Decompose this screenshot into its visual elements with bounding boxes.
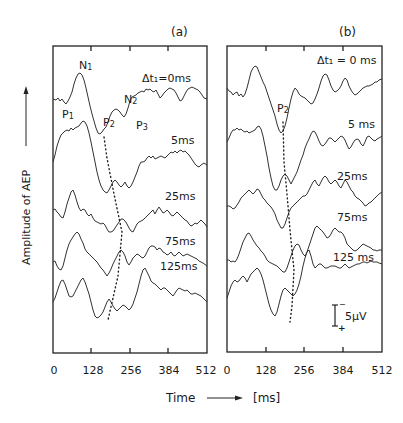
- aep-figure: (a) (b) Amplitude of AEP N1 P1 P2 N2: [0, 0, 403, 423]
- x-axis-label-group: Time [ms]: [165, 391, 280, 405]
- up-arrow-icon: [24, 86, 29, 94]
- scale-plus-sign: +: [338, 323, 346, 333]
- condition-label-125ms: 125ms: [160, 260, 198, 273]
- x-tick-label: 256: [121, 364, 142, 377]
- x-tick-label: 0: [51, 364, 58, 377]
- peak-label-p1: P1: [62, 108, 74, 121]
- peak-label-n1: N1: [79, 59, 92, 72]
- condition-label-b-0ms: Δt₁ = 0 ms: [317, 54, 377, 67]
- panel-b-title: (b): [339, 25, 356, 39]
- trace-a-5ms: [53, 121, 207, 193]
- x-tick-label: 384: [333, 364, 354, 377]
- panel-b: P2 Δt₁ = 0 ms 5 ms 25ms 75ms 125 ms − + …: [227, 46, 382, 352]
- x-tick-label: 384: [159, 364, 180, 377]
- condition-label-0ms: Δt₁=0ms: [142, 72, 191, 85]
- x-tick-labels-a: 0 128 256 384 512: [51, 364, 217, 377]
- x-tick-labels-b: 0 128 256 384 512: [224, 364, 393, 377]
- y-axis-label-group: Amplitude of AEP: [20, 86, 33, 265]
- y-axis-label: Amplitude of AEP: [20, 170, 33, 265]
- condition-label-5ms: 5ms: [171, 134, 195, 147]
- condition-label-25ms: 25ms: [165, 190, 196, 203]
- trace-b-75ms: [227, 226, 382, 272]
- condition-label-b-75ms: 75ms: [337, 211, 368, 224]
- scale-bar: − + 5µV: [332, 300, 367, 333]
- x-tick-label: 256: [294, 364, 315, 377]
- scale-bar-label: 5µV: [345, 310, 367, 323]
- peak-label-p2: P2: [103, 116, 115, 129]
- condition-label-b-25ms: 25ms: [337, 170, 368, 183]
- x-tick-label: 128: [83, 364, 104, 377]
- x-tick-label: 0: [224, 364, 231, 377]
- peak-label-p3: P3: [136, 119, 148, 132]
- peak-label-p2-b: P2: [277, 102, 289, 115]
- condition-label-75ms: 75ms: [165, 235, 196, 248]
- x-tick-label: 128: [256, 364, 277, 377]
- condition-label-b-125ms: 125 ms: [333, 251, 374, 264]
- x-tick-label: 512: [372, 364, 393, 377]
- scale-minus-sign: −: [339, 300, 346, 309]
- condition-label-b-5ms: 5 ms: [348, 118, 375, 131]
- panel-a: N1 P1 P2 N2 P3 Δt₁=0ms 5ms 25ms 75ms 125…: [53, 46, 207, 353]
- panel-a-title: (a): [171, 25, 188, 39]
- x-tick-label: 512: [196, 364, 217, 377]
- x-axis-label: Time: [165, 391, 195, 405]
- x-axis-unit: [ms]: [253, 391, 280, 405]
- trace-a-125ms: [53, 268, 207, 318]
- right-arrow-icon: [235, 396, 243, 401]
